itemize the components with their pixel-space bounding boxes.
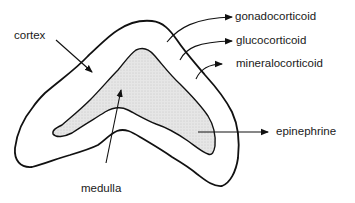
adrenal-gland-diagram: cortex medulla gonadocorticoid glucocort… (0, 0, 355, 203)
gonadocorticoid-label: gonadocorticoid (235, 11, 316, 23)
cortex-label: cortex (14, 30, 45, 42)
mineralocorticoid-label: mineralocorticoid (236, 58, 323, 70)
cortex-arrow (56, 40, 92, 72)
diagram-canvas (0, 0, 355, 203)
epinephrine-label: epinephrine (276, 126, 336, 138)
medulla-label: medulla (81, 183, 121, 195)
glucocorticoid-label: glucocorticoid (236, 35, 306, 47)
